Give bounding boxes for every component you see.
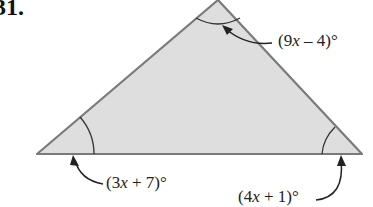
right-angle-label: (4x + 1)° [238,187,299,207]
left-arrowhead-icon [70,155,79,166]
left-angle-label: (3x + 7)° [106,173,167,193]
right-angle-label-pre: (4 [238,187,252,206]
triangle [37,0,362,154]
right-arrowhead-icon [337,155,346,166]
left-arrow [75,160,103,184]
top-angle-variable: x [292,31,300,50]
right-angle-label-post: + 1)° [260,187,299,206]
left-angle-label-pre: (3 [106,173,120,192]
top-angle-label: (9x – 4)° [278,31,338,51]
top-angle-label-pre: (9 [278,31,292,50]
top-angle-label-post: – 4)° [300,31,338,50]
left-angle-variable: x [120,173,128,192]
right-angle-variable: x [252,187,260,206]
left-angle-label-post: + 7)° [128,173,167,192]
